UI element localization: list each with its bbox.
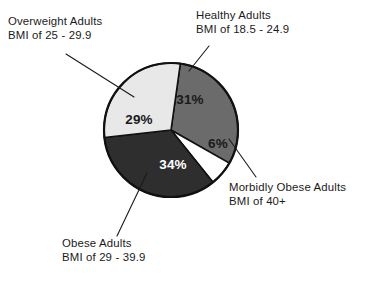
callout-morbidly-obese: Morbidly Obese Adults BMI of 40+	[229, 180, 346, 209]
leader-line-overweight	[66, 54, 134, 97]
callout-obese-title: Obese Adults	[62, 236, 145, 250]
callout-morbid-criteria: BMI of 40+	[229, 194, 346, 208]
slice-value-obese: 34%	[159, 157, 187, 172]
slice-value-morbid: 6%	[208, 136, 228, 151]
slice-value-healthy: 31%	[176, 92, 204, 107]
callout-healthy: Healthy Adults BMI of 18.5 - 24.9	[196, 8, 289, 37]
callout-obese: Obese Adults BMI of 29 - 39.9	[62, 236, 145, 265]
pie-chart-figure: 31% 6% 34% 29% Overweight Adults BMI of …	[0, 0, 368, 282]
callout-morbid-title: Morbidly Obese Adults	[229, 180, 346, 194]
slice-value-overweight: 29%	[125, 112, 153, 127]
callout-healthy-title: Healthy Adults	[196, 8, 289, 22]
callout-obese-criteria: BMI of 29 - 39.9	[62, 250, 145, 264]
leader-line-healthy	[189, 46, 209, 71]
callout-overweight-title: Overweight Adults	[8, 14, 102, 28]
callout-healthy-criteria: BMI of 18.5 - 24.9	[196, 22, 289, 36]
callout-overweight-criteria: BMI of 25 - 29.9	[8, 28, 102, 42]
callout-overweight: Overweight Adults BMI of 25 - 29.9	[8, 14, 102, 43]
